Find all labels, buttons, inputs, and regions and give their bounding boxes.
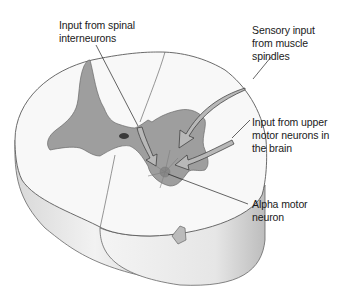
central-canal bbox=[119, 133, 129, 139]
label-muscle-spindles: Sensory input from muscle spindles bbox=[252, 24, 315, 63]
label-alpha-motor-neuron: Alpha motor neuron bbox=[252, 198, 308, 224]
spinal-cord-diagram: Input from spinal interneurons Sensory i… bbox=[0, 0, 344, 290]
label-spinal-interneurons: Input from spinal interneurons bbox=[59, 19, 135, 45]
label-upper-motor-neurons: Input from upper motor neurons in the br… bbox=[252, 116, 329, 155]
